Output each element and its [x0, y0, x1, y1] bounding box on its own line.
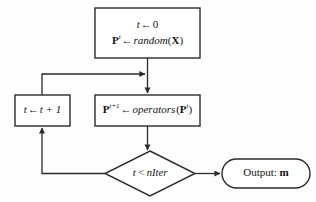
left-arrow-icon: ← — [140, 18, 153, 30]
node-operators-label: Pt+1←operators (Pt) — [95, 103, 200, 117]
node-increment-label: t←t + 1 — [15, 103, 70, 117]
node-init-line1: t←0 — [95, 18, 200, 32]
node-operators-func: operators — [132, 103, 175, 115]
flowchart-canvas: t←0 Pt←random(X) t←t + 1 Pt+1←operators … — [0, 0, 316, 202]
node-output-prefix: Output: — [243, 166, 277, 178]
node-operators-arg: P — [180, 103, 187, 115]
node-condition-lhs: t — [133, 167, 136, 178]
node-init-line2-var: P — [112, 34, 119, 46]
node-output-label: Output: m — [222, 166, 310, 180]
node-operators-arg-sup: t — [187, 102, 189, 109]
node-init-line2-arg: X — [171, 34, 179, 46]
node-output-value: m — [280, 166, 289, 178]
node-condition-operator: < — [138, 167, 144, 178]
node-operators-lhs: P — [103, 103, 110, 115]
node-init-line1-value: 0 — [153, 18, 159, 30]
left-arrow-icon: ← — [121, 34, 134, 46]
node-init — [95, 8, 200, 58]
node-operators-lhs-sup: t+1 — [110, 102, 120, 109]
node-init-line2-func: random — [134, 34, 168, 46]
edge-increment-to-operators — [42, 74, 145, 95]
left-arrow-icon: ← — [119, 103, 132, 115]
node-increment-expr: t + 1 — [40, 103, 61, 115]
node-init-line2: Pt←random(X) — [95, 34, 200, 48]
edge-condition-to-increment — [42, 128, 105, 174]
node-condition-rhs: nIter — [147, 167, 167, 178]
left-arrow-icon: ← — [27, 103, 40, 115]
node-condition-label: t < nIter — [105, 166, 195, 179]
